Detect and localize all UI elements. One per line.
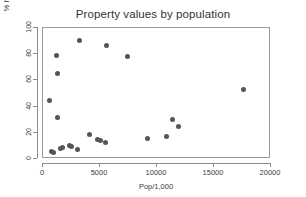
y-tick-label-wrap: 80 <box>22 45 32 61</box>
x-tick-mark <box>270 163 271 167</box>
data-point <box>60 145 65 150</box>
x-tick-label: 0 <box>40 169 44 177</box>
data-point <box>176 124 181 129</box>
data-point <box>69 144 74 149</box>
data-point <box>47 98 52 103</box>
x-tick-mark <box>213 163 214 167</box>
y-tick-label-wrap: 100 <box>22 19 32 35</box>
y-axis-title: % homes cost $100K+ <box>1 0 13 39</box>
y-tick-label-wrap: 20 <box>22 124 32 140</box>
data-point <box>55 71 60 76</box>
y-tick-mark <box>33 106 37 107</box>
data-point <box>87 132 92 137</box>
x-tick-label: 5000 <box>91 169 108 177</box>
y-tick-label-wrap: 60 <box>22 71 32 87</box>
y-tick-label: 20 <box>25 128 32 136</box>
data-point <box>55 115 60 120</box>
y-tick-mark <box>33 53 37 54</box>
data-point <box>98 138 103 143</box>
y-tick-mark <box>33 79 37 80</box>
x-tick-mark <box>156 163 157 167</box>
data-point <box>170 117 175 122</box>
scatter-chart: Property values by population % homes co… <box>0 0 306 197</box>
data-point <box>54 53 59 58</box>
y-tick-label: 100 <box>25 21 32 33</box>
chart-title: Property values by population <box>0 8 306 20</box>
data-point <box>104 43 109 48</box>
y-tick-label-wrap: 40 <box>22 98 32 114</box>
x-tick-label: 15000 <box>203 169 224 177</box>
y-tick-mark <box>33 158 37 159</box>
y-axis-line <box>37 27 38 158</box>
x-tick-label: 10000 <box>146 169 167 177</box>
data-point <box>125 54 130 59</box>
y-tick-label: 60 <box>25 75 32 83</box>
y-tick-mark <box>33 132 37 133</box>
y-tick-label: 0 <box>25 156 32 160</box>
data-points-layer <box>43 28 269 157</box>
data-point <box>51 150 56 155</box>
y-tick-label: 80 <box>25 49 32 57</box>
data-point <box>241 87 246 92</box>
y-tick-label-wrap: 0 <box>22 150 32 166</box>
data-point <box>164 134 169 139</box>
data-point <box>103 140 108 145</box>
data-point <box>145 136 150 141</box>
y-tick-label: 40 <box>25 102 32 110</box>
plot-area <box>42 27 270 158</box>
x-tick-mark <box>99 163 100 167</box>
x-tick-label: 20000 <box>260 169 281 177</box>
data-point <box>77 38 82 43</box>
data-point <box>75 147 80 152</box>
y-tick-mark <box>33 27 37 28</box>
x-tick-mark <box>42 163 43 167</box>
x-axis-title: Pop/1,000 <box>42 182 270 191</box>
